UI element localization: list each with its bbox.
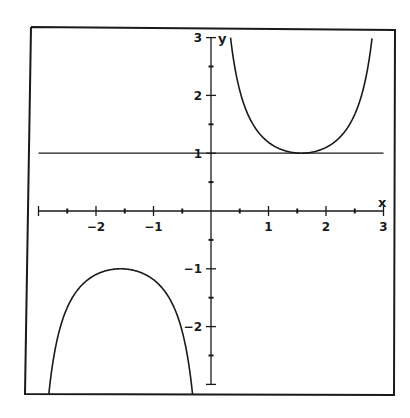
x-tick-label: −2: [87, 220, 105, 234]
y-tick-label: −2: [184, 320, 202, 334]
y-tick-label: 3: [194, 31, 202, 45]
csc-graph: −2−1123 321−1−2 x y: [0, 0, 410, 418]
curve-upper-branch: [231, 38, 372, 154]
curve-lower-branch: [49, 269, 193, 395]
x-tick-label: −1: [144, 220, 162, 234]
y-tick-label: −1: [184, 262, 202, 276]
x-tick-label: 1: [264, 220, 272, 234]
x-axis-label: x: [378, 195, 387, 210]
x-tick-label: 2: [322, 220, 330, 234]
y-tick-label: 2: [194, 89, 202, 103]
y-tick-label: 1: [194, 147, 202, 161]
x-tick-labels: −2−1123: [87, 220, 388, 234]
x-tick-label: 3: [379, 220, 387, 234]
y-tick-labels: 321−1−2: [184, 31, 202, 334]
y-axis-label: y: [218, 31, 227, 46]
